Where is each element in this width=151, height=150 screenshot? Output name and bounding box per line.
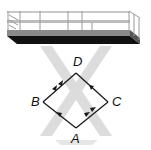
vertex-label-a: A [71, 132, 80, 145]
platform [7, 11, 140, 44]
vertex-label-d: D [73, 55, 82, 68]
vertex-label-b: B [31, 95, 40, 108]
scissor-lift-figure [0, 0, 151, 150]
vertex-label-c: C [112, 95, 121, 108]
